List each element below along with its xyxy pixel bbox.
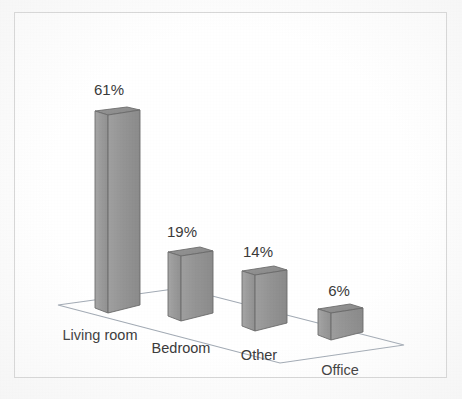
data-label-bedroom: 19% <box>167 223 197 240</box>
category-label-bedroom: Bedroom <box>152 340 211 356</box>
bar-other[interactable] <box>242 266 287 331</box>
bar-chart-3d: 61% 19% 14% 6% Living room Bedroom Other… <box>0 0 462 399</box>
chart-scene: 61% 19% 14% 6% Living room Bedroom Other… <box>0 0 462 399</box>
data-label-living-room: 61% <box>94 81 124 98</box>
category-label-office: Office <box>321 362 359 378</box>
bar-bedroom[interactable] <box>168 247 213 321</box>
category-label-other: Other <box>241 347 277 363</box>
bar-living-room[interactable] <box>95 107 140 313</box>
data-label-office: 6% <box>328 282 350 299</box>
data-label-other: 14% <box>243 243 273 260</box>
category-label-living-room: Living room <box>63 327 138 343</box>
